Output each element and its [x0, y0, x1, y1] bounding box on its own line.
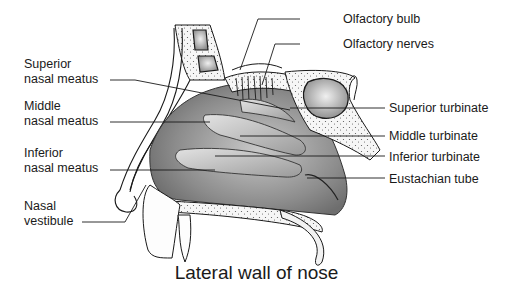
label-line: nasal meatus [24, 161, 98, 176]
label-superior-turbinate: Superior turbinate [389, 101, 488, 116]
label-line: nasal meatus [24, 72, 98, 87]
label-line: Inferior [24, 146, 98, 161]
label-eustachian-tube: Eustachian tube [389, 172, 479, 187]
label-nasal-vestibule: Nasal vestibule [24, 199, 73, 229]
label-middle-turbinate: Middle turbinate [389, 129, 478, 144]
label-line: Nasal [24, 199, 73, 214]
label-inferior-turbinate: Inferior turbinate [389, 150, 480, 165]
label-olfactory-bulb: Olfactory bulb [343, 12, 420, 27]
label-inferior-nasal-meatus: Inferior nasal meatus [24, 146, 98, 176]
label-middle-nasal-meatus: Middle nasal meatus [24, 99, 98, 129]
label-line: vestibule [24, 214, 73, 229]
figure-caption: Lateral wall of nose [0, 262, 513, 284]
label-superior-nasal-meatus: Superior nasal meatus [24, 57, 98, 87]
label-line: Middle [24, 99, 98, 114]
label-olfactory-nerves: Olfactory nerves [343, 37, 434, 52]
label-line: nasal meatus [24, 114, 98, 129]
label-line: Superior [24, 57, 98, 72]
